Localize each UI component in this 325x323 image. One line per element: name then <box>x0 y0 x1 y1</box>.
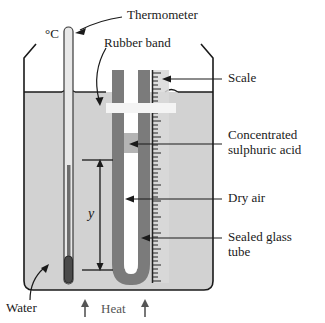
leader-thermometer <box>75 17 122 35</box>
celsius-label: °C <box>45 27 59 40</box>
length-y-label: y <box>88 207 94 220</box>
heat-arrow-left <box>81 299 89 317</box>
dry-air-label: Dry air <box>228 191 265 204</box>
thermometer-mercury-column <box>67 165 71 265</box>
sulphuric-acid-label-line2: sulphuric acid <box>228 143 301 156</box>
water-label: Water <box>6 301 37 314</box>
rubber-band <box>106 103 176 113</box>
thermometer-bulb <box>65 256 73 283</box>
sealed-glass-tube-label-line1: Sealed glass <box>228 230 292 243</box>
diagram-canvas: °C Thermometer Rubber band Scale Concent… <box>0 0 325 323</box>
heat-arrow-right <box>141 299 149 317</box>
thermometer-label: Thermometer <box>127 8 198 21</box>
sealed-glass-tube-label-line2: tube <box>228 245 250 258</box>
scale-label: Scale <box>228 71 256 84</box>
heat-label: Heat <box>101 302 126 315</box>
dry-air-column <box>124 70 138 274</box>
rubber-band-label: Rubber band <box>104 36 171 49</box>
sulphuric-acid-label-line1: Concentrated <box>228 128 297 141</box>
